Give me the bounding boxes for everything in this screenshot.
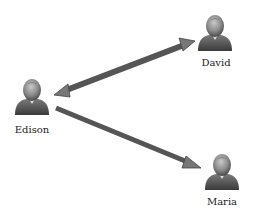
arrowhead-icon (54, 84, 70, 97)
node-label-maria: Maria (207, 196, 237, 207)
node-label-david: David (201, 57, 230, 68)
node-label-edison: Edison (15, 124, 50, 135)
edge-edison-maria (56, 108, 201, 168)
person-icon-maria (202, 152, 242, 192)
person-icon-edison (12, 77, 52, 117)
person-icon-david (195, 13, 235, 53)
edge-edison-david (54, 38, 195, 97)
arrowhead-icon (182, 156, 201, 168)
